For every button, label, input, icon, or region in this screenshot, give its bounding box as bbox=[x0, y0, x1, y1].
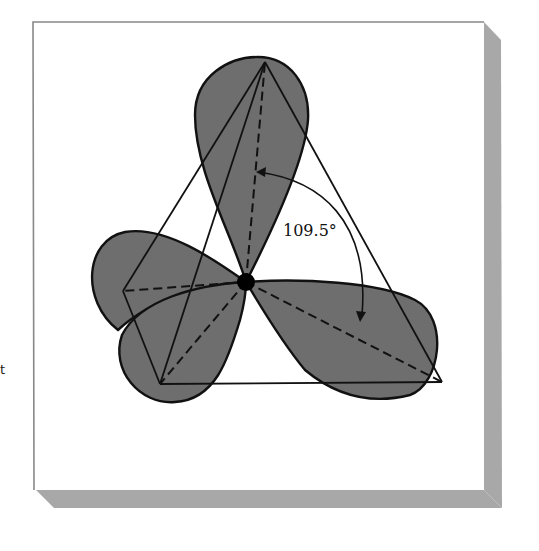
angle-label: 109.5° bbox=[283, 221, 337, 240]
panel-shadow-right bbox=[484, 22, 502, 508]
figure-panel: 109.5° bbox=[0, 0, 539, 551]
central-atom bbox=[237, 273, 255, 291]
panel-shadow-bottom bbox=[36, 490, 502, 508]
